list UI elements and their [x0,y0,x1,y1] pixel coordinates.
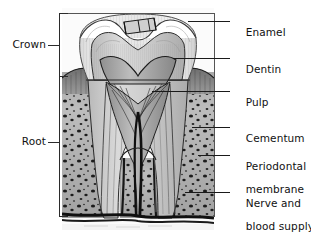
label-enamel: Enamel [232,15,286,50]
label-dentin-line1: Dentin [246,63,282,75]
tooth-anatomy-figure: Crown Root Enamel Dentin Pulp Cementum P… [0,0,311,236]
root-leader-line [48,142,60,143]
label-root: Root [0,136,46,148]
frame-right [214,13,215,217]
label-enamel-line1: Enamel [246,26,286,38]
root-bracket-vertical [59,76,60,217]
label-nerve-blood-supply-line2: blood supply [246,220,311,232]
leader-periodontal-membrane [198,155,230,156]
leader-enamel [188,21,230,22]
crown-leader-line [48,45,60,46]
leader-nerve-blood-supply [185,192,230,193]
label-dentin: Dentin [232,52,281,87]
label-cementum-line1: Cementum [246,132,305,144]
crown-bracket-bottom-tick [59,76,68,77]
leader-pulp [152,91,230,92]
tooth-cross-section-illustration [62,8,214,230]
leader-cementum [192,127,230,128]
label-nerve-blood-supply: Nerve and blood supply [232,186,311,236]
frame-top [62,13,215,14]
label-crown: Crown [0,39,46,51]
crown-bracket-top-tick [59,13,68,14]
label-nerve-blood-supply-line1: Nerve and [246,197,301,209]
label-pulp-line1: Pulp [246,96,269,108]
label-pulp: Pulp [232,85,269,120]
label-periodontal-membrane-line1: Periodontal [246,160,306,172]
root-bracket-bottom-tick [59,216,68,217]
leader-dentin [173,58,230,59]
